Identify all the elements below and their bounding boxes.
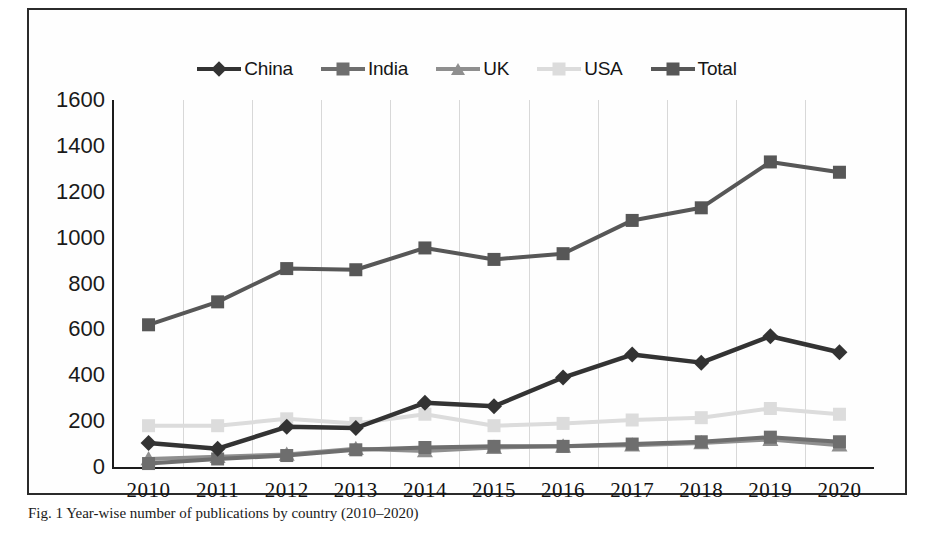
data-point-square-marker xyxy=(349,443,362,456)
data-point-diamond-marker xyxy=(831,344,847,360)
x-tick-label: 2015 xyxy=(472,478,516,503)
data-point-square-marker xyxy=(557,247,570,260)
y-tick-label: 600 xyxy=(68,316,105,342)
y-tick-label: 1400 xyxy=(56,133,105,159)
legend-label: UK xyxy=(483,58,509,80)
y-tick-label: 400 xyxy=(68,362,105,388)
x-tick-label: 2017 xyxy=(610,478,654,503)
data-point-square-marker xyxy=(626,214,639,227)
chart-legend: ChinaIndiaUKUSATotal xyxy=(27,54,907,84)
data-point-square-marker xyxy=(142,457,155,470)
data-point-square-marker xyxy=(280,262,293,275)
data-point-square-marker xyxy=(695,201,708,214)
legend-item-india[interactable]: India xyxy=(321,58,408,80)
x-tick-label: 2018 xyxy=(679,478,723,503)
data-point-diamond-marker xyxy=(141,435,157,451)
data-point-square-marker xyxy=(764,155,777,168)
data-point-square-marker xyxy=(833,435,846,448)
x-tick-label: 2012 xyxy=(265,478,309,503)
x-tick-label: 2013 xyxy=(334,478,378,503)
data-point-square-marker xyxy=(488,253,501,266)
series-canvas xyxy=(114,100,874,467)
y-tick-label: 800 xyxy=(68,271,105,297)
y-tick-label: 0 xyxy=(93,454,105,480)
data-point-square-marker xyxy=(280,449,293,462)
legend-swatch-triangle-icon xyxy=(436,67,480,71)
legend-item-china[interactable]: China xyxy=(197,58,293,80)
data-point-square-marker xyxy=(833,166,846,179)
x-tick-label: 2011 xyxy=(196,478,239,503)
data-point-square-marker xyxy=(695,435,708,448)
data-point-diamond-marker xyxy=(555,370,571,386)
series-total xyxy=(142,155,846,331)
data-point-square-marker xyxy=(764,402,777,415)
legend-marker-icon xyxy=(451,63,465,75)
legend-label: Total xyxy=(698,58,737,80)
data-point-square-marker xyxy=(626,413,639,426)
data-point-square-marker xyxy=(488,440,501,453)
data-point-square-marker xyxy=(142,318,155,331)
legend-marker-icon xyxy=(666,63,679,76)
data-point-diamond-marker xyxy=(762,328,778,344)
x-tick-label: 2014 xyxy=(403,478,447,503)
y-tick-label: 1600 xyxy=(56,87,105,113)
data-point-square-marker xyxy=(418,241,431,254)
data-point-square-marker xyxy=(142,419,155,432)
chart-figure: ChinaIndiaUKUSATotal 0200400600800100012… xyxy=(27,8,907,495)
x-tick-label: 2019 xyxy=(748,478,792,503)
data-point-square-marker xyxy=(764,431,777,444)
data-point-square-marker xyxy=(211,295,224,308)
data-point-square-marker xyxy=(418,441,431,454)
data-point-square-marker xyxy=(833,408,846,421)
data-point-square-marker xyxy=(557,440,570,453)
data-point-square-marker xyxy=(211,419,224,432)
data-point-square-marker xyxy=(557,417,570,430)
legend-marker-icon xyxy=(553,63,566,76)
legend-marker-icon xyxy=(211,61,227,77)
legend-swatch-square-icon xyxy=(651,67,695,71)
legend-item-total[interactable]: Total xyxy=(651,58,737,80)
legend-swatch-square-icon xyxy=(321,67,365,71)
figure-caption: Fig. 1 Year-wise number of publications … xyxy=(28,505,908,531)
data-point-square-marker xyxy=(488,419,501,432)
y-tick-label: 200 xyxy=(68,408,105,434)
series-line xyxy=(149,162,840,325)
legend-label: China xyxy=(244,58,293,80)
legend-swatch-square-icon xyxy=(537,67,581,71)
data-point-diamond-marker xyxy=(693,355,709,371)
legend-label: USA xyxy=(584,58,622,80)
legend-item-usa[interactable]: USA xyxy=(537,58,622,80)
legend-swatch-diamond-icon xyxy=(197,67,241,71)
x-tick-label: 2020 xyxy=(817,478,861,503)
x-tick-label: 2010 xyxy=(127,478,171,503)
data-point-square-marker xyxy=(349,263,362,276)
y-tick-label: 1200 xyxy=(56,179,105,205)
legend-marker-icon xyxy=(336,63,349,76)
legend-label: India xyxy=(368,58,408,80)
data-point-diamond-marker xyxy=(624,347,640,363)
x-tick-label: 2016 xyxy=(541,478,585,503)
legend-item-uk[interactable]: UK xyxy=(436,58,509,80)
data-point-square-marker xyxy=(626,438,639,451)
data-point-diamond-marker xyxy=(486,398,502,414)
series-india xyxy=(142,431,846,470)
data-point-square-marker xyxy=(695,411,708,424)
y-tick-label: 1000 xyxy=(56,225,105,251)
plot-area: 02004006008001000120014001600 2010201120… xyxy=(112,100,874,469)
